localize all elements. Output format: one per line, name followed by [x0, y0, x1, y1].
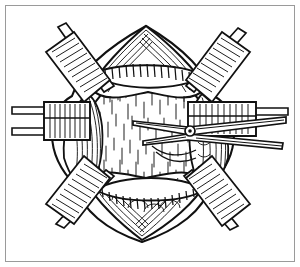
- surgical-illustration: [0, 0, 300, 267]
- scissors-pivot-center: [188, 129, 192, 133]
- illustration-root: Operative field exposed by six retractor…: [0, 0, 300, 267]
